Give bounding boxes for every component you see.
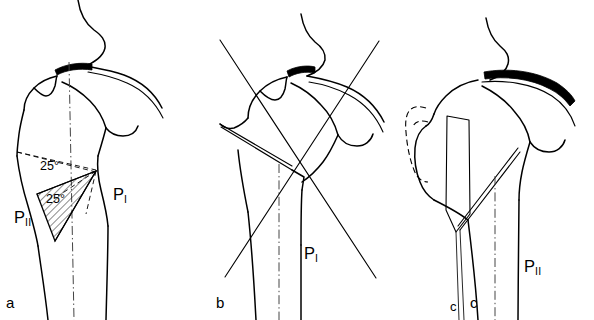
plane-one-sub: I: [315, 252, 318, 264]
lesser-trochanter: [530, 140, 565, 152]
plane-one-label: PI: [113, 186, 127, 203]
femoral-neck-inferior: [62, 82, 106, 128]
acetabular-roof-band: [484, 70, 575, 106]
femoral-neck-inferior: [291, 83, 338, 135]
panel-a-drawing: [0, 0, 200, 320]
plane-two-base: P: [524, 257, 535, 275]
osteotomy-line-upper: [458, 148, 518, 226]
figure-root: 25° 25° PI PII a: [0, 0, 594, 320]
femoral-head-contour: [434, 80, 478, 114]
subchondral-band: [287, 66, 315, 77]
guide-line-one: [220, 40, 376, 278]
panel-b: PI b: [196, 0, 396, 320]
medial-cortex-upper: [519, 142, 530, 200]
panel-letter-a: a: [6, 295, 14, 310]
panel-letter-b: b: [216, 295, 224, 310]
trochanter-fragment-lateral: [434, 200, 468, 220]
panel-c: c PII c: [394, 0, 594, 320]
resected-wedge: [37, 171, 96, 241]
medial-cortex-upper: [98, 128, 106, 156]
medial-cortex-shaft: [106, 226, 108, 320]
greater-trochanter: [17, 110, 24, 156]
plane-two-sub: II: [25, 216, 31, 228]
panel-b-drawing: [196, 0, 396, 320]
femoral-neck-inferior: [482, 86, 530, 142]
lateral-cortex-upper: [17, 156, 38, 246]
medial-cortex-mid: [98, 156, 108, 226]
head-neck-junction: [426, 114, 434, 126]
plane-two-label: PII: [524, 258, 541, 275]
medial-cortex-upper: [302, 135, 338, 182]
trochanteric-notch: [34, 76, 57, 96]
trochanteric-notch: [260, 77, 287, 100]
plane-two-base: P: [14, 208, 25, 226]
lateral-cortex-shaft: [38, 246, 48, 320]
lesser-trochanter: [106, 126, 138, 136]
angle-label-upper: 25°: [40, 160, 59, 173]
ghost-trochanter-inner: [413, 121, 428, 126]
medial-cortex-shaft: [518, 200, 519, 320]
acetabular-rim-upper: [86, 66, 162, 108]
medial-cortex-mid: [301, 190, 302, 245]
chisel-marker-label: c: [450, 300, 457, 313]
osteotomy-cut-face-upper: [220, 124, 292, 166]
plane-two-sub: II: [535, 265, 541, 277]
lesser-trochanter: [338, 134, 373, 146]
trochanter-fragment-outline: [415, 126, 434, 200]
plane-one-base: P: [304, 244, 315, 262]
angle-label-lower: 25°: [46, 193, 65, 206]
pelvis-contour: [78, 0, 105, 66]
acetabular-rim-lower: [309, 82, 383, 132]
panel-a: 25° 25° PI PII a: [0, 0, 200, 320]
plane-two-label: PII: [14, 209, 31, 226]
subchondral-band: [55, 63, 92, 75]
lateral-cortex-upper: [238, 150, 248, 212]
plane-one-sub: I: [124, 193, 127, 205]
plane-one-base: P: [113, 185, 124, 203]
panel-letter-c: c: [470, 295, 478, 310]
panel-c-drawing: [394, 0, 594, 320]
blade-plate-edge-inner: [460, 230, 464, 320]
guide-line-two: [225, 41, 379, 277]
lateral-cortex-shaft: [248, 212, 256, 320]
distal-fragment-cut-edge: [292, 170, 304, 190]
plane-one-label: PI: [304, 245, 318, 262]
acetabular-rim-lower: [88, 72, 163, 118]
